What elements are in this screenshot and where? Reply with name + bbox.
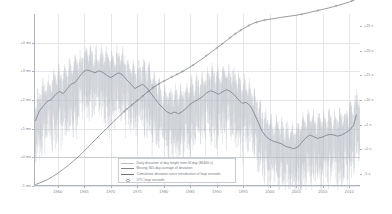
x-axis-tick-label: 2010 (318, 190, 327, 194)
x-axis-tick-mark (349, 186, 350, 188)
y-axis-right-tick-label: +20 s (364, 49, 373, 53)
y-axis-right-tick-mark (360, 174, 362, 175)
x-axis-tick-mark (217, 186, 218, 188)
legend-item-label: UTC leap seconds (137, 178, 165, 182)
x-axis-tick-label: 1965 (80, 190, 89, 194)
y-axis-right-tick-label: +25 s (364, 24, 373, 28)
chart-legend: Daily deviation of day length from SI da… (118, 158, 236, 183)
y-axis-left-tick-label: +2 ms (21, 98, 31, 102)
x-axis-tick-mark (296, 186, 297, 188)
x-axis-tick-label: 1960 (53, 190, 62, 194)
legend-swatch-line-mid (121, 166, 134, 171)
y-axis-left-tick-mark (32, 186, 34, 187)
length-of-day-chart: -1 ms+0 ms+1 ms+2 ms+3 ms+4 ms -5 s+0 s+… (0, 0, 392, 214)
x-axis-tick-mark (190, 186, 191, 188)
legend-item-label: Moving 365-day average of deviation (137, 166, 193, 170)
y-axis-left-tick-label: +3 ms (21, 69, 31, 73)
legend-item-label: Cumulative deviation since introduction … (137, 172, 221, 176)
y-axis-left-tick-mark (32, 71, 34, 72)
x-axis-tick-mark (84, 186, 85, 188)
x-axis-tick-label: 1980 (159, 190, 168, 194)
x-axis-tick-label: 2015 (345, 190, 354, 194)
x-axis-tick-mark (323, 186, 324, 188)
y-axis-right-tick-mark (360, 51, 362, 52)
y-axis-left-tick-label: +4 ms (21, 41, 31, 45)
x-axis-tick-label: 1985 (186, 190, 195, 194)
y-axis-left-tick-mark (32, 100, 34, 101)
x-axis-tick-label: 2005 (292, 190, 301, 194)
y-axis-right-tick-mark (360, 149, 362, 150)
x-axis-tick-label: 1990 (212, 190, 221, 194)
gridline-horizontal (34, 186, 360, 187)
y-axis-right-tick-label: +0 s (364, 147, 371, 151)
legend-item[interactable]: Cumulative deviation since introduction … (121, 171, 233, 177)
x-axis-tick-label: 1975 (133, 190, 142, 194)
legend-swatch-line-dark (121, 171, 134, 176)
x-axis-tick-mark (164, 186, 165, 188)
y-axis-left-tick-label: +0 ms (21, 155, 31, 159)
y-axis-left-tick-label: -1 ms (22, 184, 31, 188)
x-axis-tick-mark (137, 186, 138, 188)
x-axis-tick-label: 1995 (239, 190, 248, 194)
y-axis-right-tick-label: +10 s (364, 98, 373, 102)
y-axis-right-tick-mark (360, 125, 362, 126)
y-axis-right-tick-label: +15 s (364, 73, 373, 77)
x-axis-tick-mark (111, 186, 112, 188)
x-axis-tick-label: 1970 (106, 190, 115, 194)
legend-swatch-marker (121, 177, 134, 182)
y-axis-left-tick-label: +1 ms (21, 127, 31, 131)
y-axis-left-tick-mark (32, 157, 34, 158)
legend-swatch-line-light (121, 160, 134, 165)
y-axis-left-tick-mark (32, 43, 34, 44)
y-axis-right-tick-mark (360, 26, 362, 27)
y-axis-right-tick-mark (360, 75, 362, 76)
y-axis-left-tick-mark (32, 129, 34, 130)
legend-item-label: Daily deviation of day length from SI da… (137, 161, 213, 165)
y-axis-right-tick-label: -5 s (364, 172, 370, 176)
y-axis-right-tick-label: +5 s (364, 123, 371, 127)
y-axis-right-tick-mark (360, 100, 362, 101)
x-axis-tick-mark (243, 186, 244, 188)
x-axis-tick-mark (58, 186, 59, 188)
x-axis-tick-mark (270, 186, 271, 188)
legend-item[interactable]: UTC leap seconds (121, 177, 233, 183)
x-axis-tick-label: 2000 (265, 190, 274, 194)
